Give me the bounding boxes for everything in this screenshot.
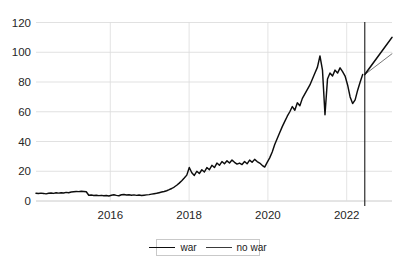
y-tick-label: 20	[18, 165, 31, 177]
line-chart: 120 100 80 60 40 20 0 2016 2018 2020 202…	[0, 0, 403, 270]
legend-item-war[interactable]: war	[149, 242, 196, 253]
x-tick-label: 2016	[98, 209, 124, 221]
y-tick-label: 120	[12, 17, 31, 29]
chart-legend: war no war	[156, 239, 260, 256]
series-line-war-forecast	[365, 37, 392, 74]
y-axis-ticks: 120 100 80 60 40 20 0	[12, 17, 31, 208]
series-line-war	[36, 56, 363, 196]
y-tick-label: 100	[12, 46, 31, 58]
x-tick-label: 2020	[255, 209, 281, 221]
y-tick-label: 60	[18, 106, 31, 118]
y-tick-label: 40	[18, 136, 31, 148]
y-tick-label: 0	[25, 195, 31, 207]
chart-container: 120 100 80 60 40 20 0 2016 2018 2020 202…	[0, 0, 403, 270]
legend-swatch-no-war-icon	[206, 247, 232, 248]
x-axis-ticks: 2016 2018 2020 2022	[98, 209, 360, 221]
legend-label-war: war	[180, 242, 196, 253]
horizontal-gridlines	[36, 23, 392, 202]
legend-label-no-war: no war	[237, 242, 267, 253]
y-tick-label: 80	[18, 76, 31, 88]
legend-item-no-war[interactable]: no war	[206, 242, 267, 253]
x-tick-label: 2022	[334, 209, 360, 221]
legend-swatch-war-icon	[149, 247, 175, 248]
x-tick-label: 2018	[176, 209, 202, 221]
